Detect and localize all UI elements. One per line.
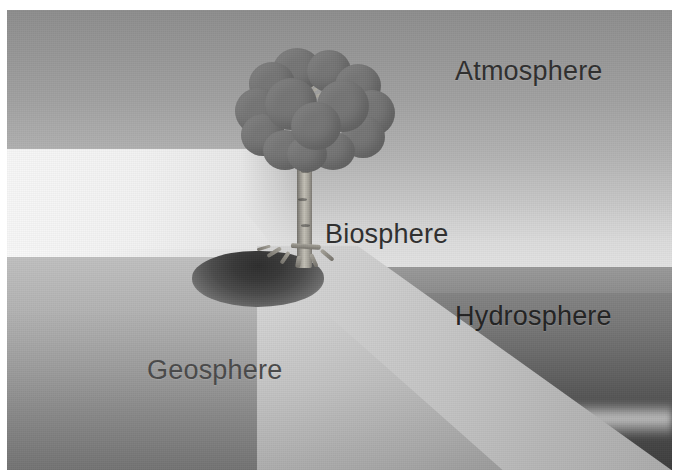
tree-root [257,245,271,252]
tree-root [266,246,282,258]
figure-canvas: Atmosphere Biosphere Hydrosphere Geosphe… [0,0,679,475]
canopy-blob [291,102,341,150]
trunk-notch-icon [301,224,310,227]
label-atmosphere: Atmosphere [455,56,603,87]
tree-root-collar [291,243,321,250]
illustration-frame: Atmosphere Biosphere Hydrosphere Geosphe… [7,10,672,470]
tree-root [320,248,335,261]
label-geosphere: Geosphere [147,355,282,386]
tree-canopy [235,48,395,178]
label-hydrosphere: Hydrosphere [455,301,612,332]
trunk-notch-icon [298,198,307,201]
tree-root [280,251,291,265]
label-biosphere: Biosphere [325,219,448,250]
